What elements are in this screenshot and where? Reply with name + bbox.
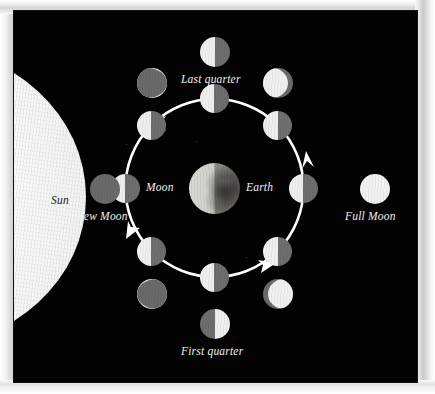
phase-waning-crescent	[137, 68, 167, 98]
orbit-moon-s	[200, 263, 229, 292]
illustration-plate: Sun Earth	[14, 11, 417, 382]
orbit-moon-sw	[137, 237, 166, 266]
phase-first-quarter	[200, 309, 230, 339]
orbit-moon-e	[289, 174, 318, 203]
phase-full-moon-label: Full Moon	[345, 210, 396, 222]
phase-waxing-gibbous	[263, 279, 293, 309]
moon-label: Moon	[146, 181, 174, 193]
phase-last-quarter	[200, 37, 230, 67]
phase-full-moon	[360, 174, 390, 204]
orbit-moon-se	[263, 237, 292, 266]
phase-waxing-crescent	[137, 279, 167, 309]
figure-root: Sun Earth	[0, 0, 435, 394]
page-margin-bottom	[0, 380, 435, 394]
page-margin-right	[415, 0, 435, 394]
orbit-moon-n	[200, 84, 229, 113]
phase-last-quarter-label: Last quarter	[181, 73, 241, 85]
orbit-moon-ne	[263, 111, 292, 140]
phase-first-quarter-label: First quarter	[181, 345, 243, 357]
orbit-moon-nw	[137, 111, 166, 140]
earth-label: Earth	[246, 181, 273, 193]
phase-new-moon	[90, 174, 120, 204]
orbit-arrow-right	[302, 151, 314, 169]
phase-waning-gibbous	[263, 68, 293, 98]
earth	[189, 163, 240, 214]
phase-new-moon-label: New Moon	[76, 210, 128, 222]
